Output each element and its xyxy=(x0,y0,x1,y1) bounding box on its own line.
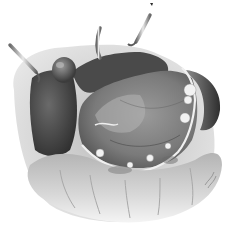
surgical-illustration xyxy=(0,0,230,233)
retractor-middle xyxy=(97,28,100,58)
retractor-right xyxy=(136,15,150,42)
top-mark xyxy=(150,3,153,6)
gallbladder xyxy=(52,57,76,83)
